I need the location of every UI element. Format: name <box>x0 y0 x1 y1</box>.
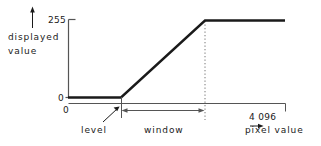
figure-container: 255 0 0 4 096 pixel value displayed valu… <box>0 0 321 146</box>
x-axis-label: pixel value <box>245 125 304 135</box>
window-level-transfer-function-chart: 255 0 0 4 096 pixel value displayed valu… <box>0 0 321 146</box>
level-label: level <box>81 125 107 135</box>
transfer-function-curve <box>68 21 285 98</box>
y-axis-label-line2: value <box>8 46 37 56</box>
window-span-arrow <box>122 108 205 113</box>
y-axis-label-line1: displayed <box>8 32 59 42</box>
y-tick-label-0: 0 <box>58 93 64 103</box>
displayed-value-axis-arrow <box>30 6 35 28</box>
level-pointer-arrow <box>103 106 120 122</box>
x-tick-label-4096: 4 096 <box>249 112 276 122</box>
window-label: window <box>144 125 184 135</box>
y-tick-label-255: 255 <box>48 15 66 25</box>
x-tick-label-0: 0 <box>63 105 69 115</box>
